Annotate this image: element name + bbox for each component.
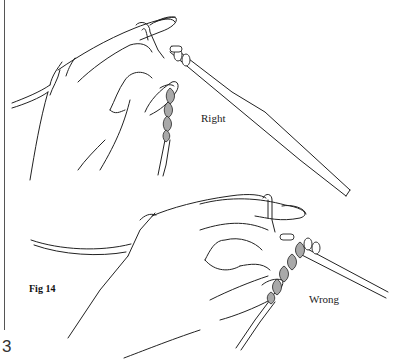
book-page: Right Wrong Fig 14 3	[0, 0, 398, 360]
right-label: Right	[201, 112, 225, 124]
crochet-hold-right-illustration	[0, 0, 398, 360]
wrong-label: Wrong	[309, 293, 339, 305]
figure-caption: Fig 14	[29, 283, 55, 294]
page-number: 3	[2, 337, 11, 357]
